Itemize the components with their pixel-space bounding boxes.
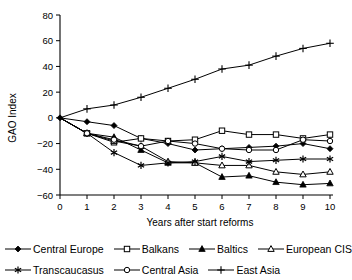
legend-marker-open-circle — [113, 263, 141, 277]
data-point-filled-diamond — [111, 123, 117, 129]
data-point-open-circle — [84, 131, 89, 136]
y-tick-label: −20 — [37, 138, 53, 149]
data-point-plus — [191, 75, 199, 83]
data-point-plus — [245, 61, 253, 69]
legend-marker-asterisk — [4, 263, 32, 277]
data-point-open-circle — [138, 143, 143, 148]
legend-item-baltics[interactable]: Baltics — [188, 242, 248, 256]
data-point-filled-triangle — [246, 172, 252, 178]
data-point-open-circle — [219, 146, 224, 151]
series-baltics — [60, 118, 333, 187]
data-series-layer — [57, 39, 334, 187]
plot-area: −60−40−20020406080 012345678910 GAO Inde… — [0, 0, 344, 235]
data-point-open-square — [124, 246, 129, 251]
data-point-plus — [218, 65, 226, 73]
data-point-plus — [218, 266, 226, 274]
x-tick-label: 10 — [325, 201, 336, 212]
data-point-open-square — [219, 128, 224, 133]
legend-item-label: European CIS — [285, 243, 352, 255]
x-tick-label: 7 — [246, 201, 251, 212]
data-point-open-circle — [246, 147, 251, 152]
series-european-cis — [60, 118, 333, 177]
x-tick-label: 2 — [111, 201, 116, 212]
data-point-plus — [83, 105, 91, 113]
data-point-plus — [110, 101, 118, 109]
chart-legend: Central EuropeBalkansBalticsEuropean CIS… — [0, 236, 344, 280]
legend-item-balkans[interactable]: Balkans — [113, 242, 179, 256]
x-tick-label: 6 — [219, 201, 224, 212]
data-point-filled-diamond — [192, 147, 198, 153]
data-point-filled-diamond — [84, 119, 90, 125]
chart-canvas: −60−40−20020406080 012345678910 GAO Inde… — [0, 0, 344, 235]
y-tick-label: −60 — [37, 190, 53, 201]
data-point-open-circle — [327, 138, 332, 143]
data-point-plus — [164, 84, 172, 92]
x-tick-label: 4 — [165, 201, 170, 212]
x-tick-label: 5 — [192, 201, 197, 212]
legend-marker-filled-diamond — [4, 242, 32, 256]
y-tick-label: 60 — [42, 35, 53, 46]
data-point-plus — [272, 52, 280, 60]
series-central-europe — [57, 115, 333, 153]
legend-item-european-cis[interactable]: European CIS — [257, 242, 352, 256]
data-point-plus — [299, 45, 307, 53]
data-point-open-square — [327, 132, 332, 137]
legend-item-transcaucasus[interactable]: Transcaucasus — [4, 263, 104, 277]
x-tick-label: 9 — [300, 201, 305, 212]
data-point-open-square — [138, 136, 143, 141]
legend-marker-plus — [207, 263, 235, 277]
legend-item-east-asia[interactable]: East Asia — [207, 263, 280, 277]
data-point-filled-diamond — [327, 146, 333, 152]
y-tick-label: 80 — [42, 10, 53, 21]
data-point-plus — [326, 39, 334, 47]
legend-marker-filled-triangle — [188, 242, 216, 256]
data-point-open-square — [246, 132, 251, 137]
x-tick-label: 1 — [84, 201, 89, 212]
legend-item-label: Central Asia — [141, 264, 199, 276]
data-point-open-circle — [192, 141, 197, 146]
data-point-open-square — [273, 132, 278, 137]
data-point-asterisk — [111, 149, 117, 156]
x-tick-label: 8 — [273, 201, 278, 212]
legend-row: Central EuropeBalkansBalticsEuropean CIS — [4, 238, 340, 259]
legend-item-label: Baltics — [216, 243, 248, 255]
data-point-plus — [137, 93, 145, 101]
y-tick-label: 40 — [42, 61, 53, 72]
x-tick-label: 0 — [57, 201, 62, 212]
y-tick-label: 0 — [48, 112, 53, 123]
series-east-asia — [60, 39, 334, 117]
data-point-open-circle — [124, 267, 129, 272]
y-axis-tick-labels: −60−40−20020406080 — [37, 10, 53, 201]
legend-item-label: Transcaucasus — [32, 264, 104, 276]
data-point-open-circle — [165, 138, 170, 143]
data-point-open-circle — [300, 137, 305, 142]
data-point-open-triangle — [327, 168, 333, 174]
legend-marker-open-triangle — [257, 242, 285, 256]
data-point-open-circle — [111, 137, 116, 142]
legend-row: TranscaucasusCentral AsiaEast Asia — [4, 259, 340, 280]
legend-item-central-europe[interactable]: Central Europe — [4, 242, 104, 256]
x-tick-label: 3 — [138, 201, 143, 212]
legend-item-label: Balkans — [141, 243, 179, 255]
x-axis-tick-labels: 012345678910 — [57, 201, 335, 212]
legend-item-label: East Asia — [235, 264, 280, 276]
data-point-open-circle — [273, 147, 278, 152]
legend-item-label: Central Europe — [32, 243, 104, 255]
x-axis-title: Years after start reforms — [147, 217, 254, 228]
legend-marker-open-square — [113, 242, 141, 256]
data-point-filled-triangle — [327, 180, 333, 186]
data-point-filled-diamond — [15, 246, 21, 252]
y-tick-label: −40 — [37, 164, 53, 175]
y-tick-label: 20 — [42, 87, 53, 98]
legend-item-central-asia[interactable]: Central Asia — [113, 263, 199, 277]
y-axis-title: GAO Index — [7, 93, 18, 142]
